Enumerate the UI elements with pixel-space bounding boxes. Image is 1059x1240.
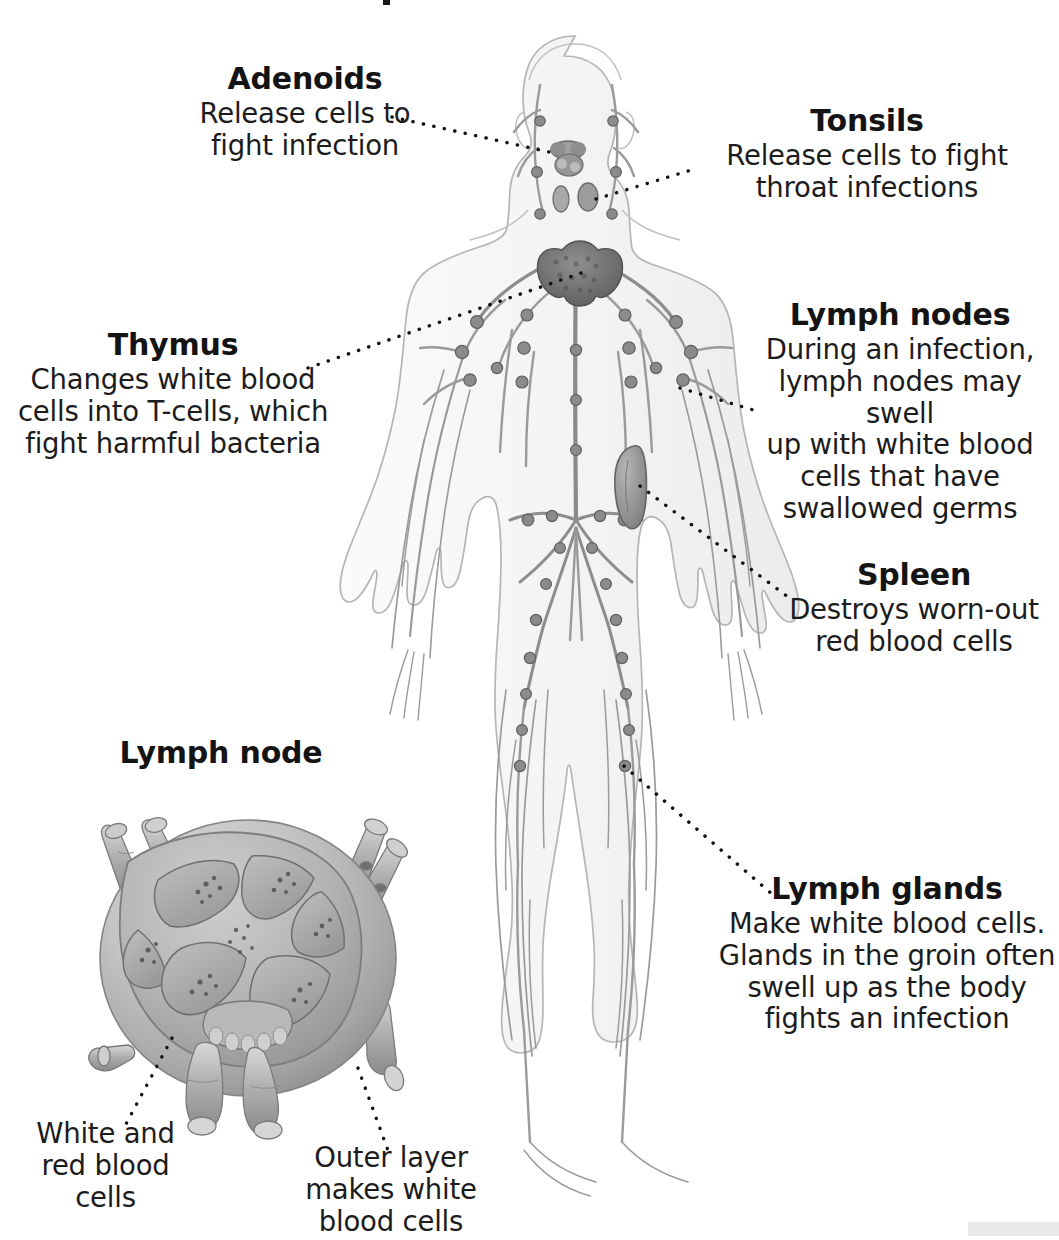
lymph-node-lobules bbox=[123, 856, 344, 1028]
label-line: fights an infection bbox=[718, 1003, 1056, 1035]
lymph-node-capsule bbox=[120, 832, 362, 1067]
lymph-node-inset-illustration bbox=[89, 816, 411, 1139]
leader-line-thymus bbox=[308, 272, 584, 368]
neck-shoulder-line bbox=[470, 210, 680, 240]
label-line: swell up as the body bbox=[718, 972, 1056, 1004]
label-line: fight infection bbox=[170, 130, 440, 162]
lymph-node-body bbox=[100, 820, 396, 1096]
efferent-vessels-top-right bbox=[343, 816, 410, 915]
leader-line-white-red-cells bbox=[126, 1038, 172, 1124]
blood-cell-clusters bbox=[140, 872, 332, 1004]
top-edge-artifact bbox=[383, 0, 390, 5]
label-white-red-blood-cells: White and red blood cells bbox=[8, 1118, 203, 1214]
label-line: red blood cells bbox=[774, 626, 1054, 658]
lymph-node-hilum bbox=[203, 1001, 292, 1053]
thymus-organ bbox=[537, 241, 622, 306]
label-line: Destroys worn-out bbox=[774, 594, 1054, 626]
label-line: cells that have bbox=[744, 461, 1056, 493]
label-lymph-glands-heading: Lymph glands bbox=[718, 872, 1056, 907]
ear-left bbox=[516, 112, 531, 148]
label-lymph-node-inset-heading-text: Lymph node bbox=[96, 736, 346, 771]
label-line: up with white blood bbox=[744, 429, 1056, 461]
label-adenoids-heading: Adenoids bbox=[170, 62, 440, 97]
label-lymph-nodes-heading: Lymph nodes bbox=[744, 298, 1056, 333]
label-tonsils: Tonsils Release cells to fight throat in… bbox=[692, 104, 1042, 204]
tonsils-organ bbox=[553, 183, 598, 212]
label-line: Outer layer bbox=[276, 1142, 506, 1174]
ear-right bbox=[619, 112, 634, 148]
label-white-red-blood-cells-body: White and red blood cells bbox=[8, 1118, 203, 1214]
label-adenoids: Adenoids Release cells to fight infectio… bbox=[170, 62, 440, 162]
leader-line-tonsils bbox=[596, 168, 698, 199]
label-line: White and bbox=[8, 1118, 203, 1150]
label-spleen-body: Destroys worn-out red blood cells bbox=[774, 594, 1054, 658]
label-line: Glands in the groin often bbox=[718, 940, 1056, 972]
lymph-node-beads bbox=[455, 116, 697, 772]
label-line: During an infection, bbox=[744, 334, 1056, 366]
label-tonsils-body: Release cells to fight throat infections bbox=[692, 140, 1042, 204]
adenoids-organ bbox=[550, 141, 586, 176]
label-thymus: Thymus Changes white blood cells into T-… bbox=[8, 328, 338, 459]
label-line: cells bbox=[8, 1182, 203, 1214]
label-line: throat infections bbox=[692, 172, 1042, 204]
label-line: Release cells to bbox=[170, 98, 440, 130]
label-line: Changes white blood bbox=[8, 364, 338, 396]
label-line: fight harmful bacteria bbox=[8, 428, 338, 460]
afferent-vessels bbox=[101, 816, 183, 896]
label-thymus-heading: Thymus bbox=[8, 328, 338, 363]
bottom-right-gray-band bbox=[968, 1222, 1059, 1236]
label-adenoids-body: Release cells to fight infection bbox=[170, 98, 440, 162]
label-lymph-nodes: Lymph nodes During an infection, lymph n… bbox=[744, 298, 1056, 525]
label-tonsils-heading: Tonsils bbox=[692, 104, 1042, 139]
label-spleen-heading: Spleen bbox=[774, 558, 1054, 593]
label-thymus-body: Changes white blood cells into T-cells, … bbox=[8, 364, 338, 460]
label-line: red blood bbox=[8, 1150, 203, 1182]
head-contour bbox=[529, 44, 621, 80]
label-outer-layer: Outer layer makes white blood cells bbox=[276, 1142, 506, 1238]
label-line: cells into T-cells, which bbox=[8, 396, 338, 428]
label-line: swallowed germs bbox=[744, 493, 1056, 525]
efferent-vessel-left bbox=[89, 1045, 135, 1071]
label-line: lymph nodes may swell bbox=[744, 366, 1056, 430]
label-spleen: Spleen Destroys worn-out red blood cells bbox=[774, 558, 1054, 658]
label-lymph-glands-body: Make white blood cells. Glands in the gr… bbox=[718, 908, 1056, 1036]
label-line: blood cells bbox=[276, 1206, 506, 1238]
label-outer-layer-body: Outer layer makes white blood cells bbox=[276, 1142, 506, 1238]
lymphatic-vessel-network bbox=[390, 85, 762, 1196]
label-lymph-node-inset-heading: Lymph node bbox=[96, 736, 346, 771]
label-line: makes white bbox=[276, 1174, 506, 1206]
label-lymph-glands: Lymph glands Make white blood cells. Gla… bbox=[718, 872, 1056, 1035]
lymphatic-system-diagram: Adenoids Release cells to fight infectio… bbox=[0, 0, 1059, 1240]
spleen-organ bbox=[615, 446, 647, 529]
label-line: Release cells to fight bbox=[692, 140, 1042, 172]
label-line: Make white blood cells. bbox=[718, 908, 1056, 940]
efferent-vessel-right bbox=[364, 997, 407, 1093]
leader-lines-group bbox=[126, 117, 792, 1156]
label-lymph-nodes-body: During an infection, lymph nodes may swe… bbox=[744, 334, 1056, 525]
